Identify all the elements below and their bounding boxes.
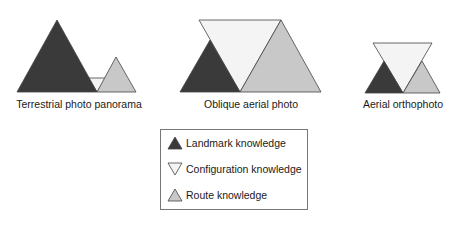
legend-item-route: Route knowledge bbox=[167, 186, 267, 204]
route-triangle-icon bbox=[167, 188, 183, 202]
legend-item-landmark: Landmark knowledge bbox=[167, 134, 286, 152]
landmark-triangle bbox=[17, 20, 97, 92]
panel-oblique bbox=[180, 20, 321, 92]
legend-label-landmark: Landmark knowledge bbox=[186, 137, 286, 149]
legend-label-route: Route knowledge bbox=[186, 189, 267, 201]
route-triangle bbox=[97, 57, 136, 92]
landmark-triangle-icon bbox=[167, 136, 183, 150]
panel-terrestrial bbox=[17, 20, 136, 92]
legend-item-configuration: Configuration knowledge bbox=[167, 160, 302, 178]
caption-orthophoto: Aerial orthophoto bbox=[363, 98, 443, 110]
caption-oblique: Oblique aerial photo bbox=[204, 98, 298, 110]
legend: Landmark knowledge Configuration knowled… bbox=[160, 129, 308, 210]
configuration-triangle-icon bbox=[167, 162, 183, 176]
legend-label-configuration: Configuration knowledge bbox=[186, 163, 302, 175]
panel-orthophoto bbox=[365, 43, 440, 93]
caption-terrestrial: Terrestrial photo panorama bbox=[16, 98, 141, 110]
